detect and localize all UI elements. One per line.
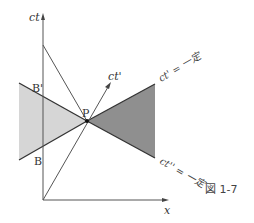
figure-caption: 図 1-7 xyxy=(205,183,237,196)
upper-constant-line-label: ct' = 一定 xyxy=(157,50,205,84)
ct-prime-arrow-icon xyxy=(105,82,111,89)
ct-axis-arrow-icon xyxy=(41,13,45,20)
x-axis-arrow-icon xyxy=(162,198,169,202)
dark-region xyxy=(87,84,155,158)
point-b-label: B xyxy=(34,155,42,168)
light-region xyxy=(19,83,87,160)
point-b-prime-label: B' xyxy=(32,82,43,95)
lower-constant-line-label: ct'' = 一定 xyxy=(158,155,208,190)
spacetime-diagram: ct x ct' P B' B ct' = 一定 ct'' = 一定 図 1-7 xyxy=(0,0,254,223)
point-p-label: P xyxy=(82,107,90,120)
ct-prime-axis-label: ct' xyxy=(108,70,122,83)
ct-axis-label: ct xyxy=(29,11,40,24)
x-axis-label: x xyxy=(164,204,171,217)
